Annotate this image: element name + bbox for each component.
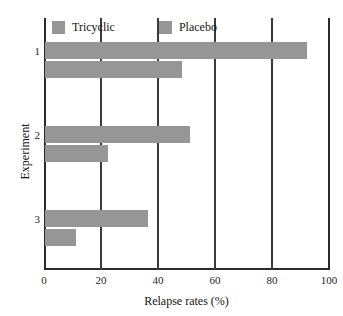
bar-placebo-exp-3 (45, 229, 76, 246)
x-axis-line (44, 268, 329, 270)
relapse-rates-bar-chart: Tricyclic Placebo Experiment 02040608010… (0, 0, 343, 316)
bar-placebo-exp-2 (45, 145, 108, 162)
legend-entry-tricyclic: Tricyclic (52, 20, 115, 35)
x-axis-title: Relapse rates (%) (44, 294, 329, 309)
x-tick-label-100: 100 (321, 274, 338, 286)
bar-tricyclic-exp-3 (45, 210, 148, 227)
chart-legend: Tricyclic Placebo (52, 20, 217, 35)
x-tick-label-0: 0 (41, 274, 47, 286)
bar-tricyclic-exp-1 (45, 42, 307, 59)
legend-swatch-placebo (159, 21, 172, 34)
plot-area (44, 18, 329, 270)
gridline-100 (328, 18, 330, 270)
legend-label-tricyclic: Tricyclic (72, 20, 115, 35)
y-tick-label-2: 2 (28, 129, 40, 141)
legend-label-placebo: Placebo (179, 20, 217, 35)
x-tick-label-60: 60 (210, 274, 221, 286)
y-tick-label-1: 1 (28, 45, 40, 57)
legend-entry-placebo: Placebo (159, 20, 217, 35)
legend-swatch-tricyclic (52, 21, 65, 34)
x-tick-label-20: 20 (96, 274, 107, 286)
chart-title (0, 0, 343, 5)
y-axis-title: Experiment (18, 97, 33, 207)
bar-tricyclic-exp-2 (45, 126, 190, 143)
x-tick-label-80: 80 (267, 274, 278, 286)
bar-placebo-exp-1 (45, 61, 182, 78)
x-tick-label-40: 40 (153, 274, 164, 286)
y-tick-label-3: 3 (28, 213, 40, 225)
